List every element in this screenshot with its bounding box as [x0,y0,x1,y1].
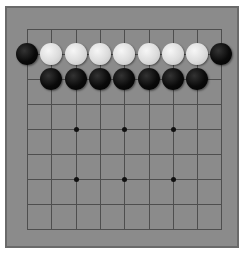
intersection[interactable] [66,119,86,139]
intersection[interactable] [139,169,159,189]
black-stone[interactable] [89,68,111,90]
intersection[interactable] [17,194,37,214]
intersection[interactable] [17,94,37,114]
intersection[interactable] [41,94,61,114]
intersection[interactable] [90,169,110,189]
white-stone[interactable] [138,43,160,65]
intersection[interactable] [163,94,183,114]
black-stone[interactable] [16,43,38,65]
intersection[interactable] [139,194,159,214]
intersection[interactable] [163,219,183,239]
intersection[interactable] [66,169,86,189]
intersection[interactable] [187,219,207,239]
intersection[interactable] [90,194,110,214]
black-stone[interactable] [186,68,208,90]
intersection[interactable] [187,19,207,39]
intersection[interactable] [163,169,183,189]
white-stone[interactable] [65,43,87,65]
intersection[interactable] [187,119,207,139]
intersection[interactable] [187,194,207,214]
intersection[interactable] [211,169,231,189]
intersection[interactable] [211,119,231,139]
intersection[interactable] [90,19,110,39]
intersection[interactable] [187,169,207,189]
intersection[interactable] [211,69,231,89]
black-stone[interactable] [65,68,87,90]
white-stone[interactable] [113,43,135,65]
intersection[interactable] [66,194,86,214]
intersection[interactable] [17,119,37,139]
intersection[interactable] [114,19,134,39]
intersection[interactable] [41,194,61,214]
intersection[interactable] [90,94,110,114]
intersection[interactable] [90,119,110,139]
intersection[interactable] [114,219,134,239]
intersection[interactable] [114,144,134,164]
intersection[interactable] [90,144,110,164]
white-stone[interactable] [186,43,208,65]
intersection[interactable] [114,169,134,189]
intersection[interactable] [17,69,37,89]
intersection[interactable] [17,219,37,239]
intersection[interactable] [139,19,159,39]
intersection[interactable] [114,94,134,114]
black-stone[interactable] [113,68,135,90]
intersection[interactable] [114,194,134,214]
intersection[interactable] [17,144,37,164]
intersection[interactable] [139,219,159,239]
intersection[interactable] [17,19,37,39]
intersection[interactable] [211,94,231,114]
white-stone[interactable] [89,43,111,65]
intersection[interactable] [187,144,207,164]
intersection[interactable] [139,144,159,164]
intersection[interactable] [211,219,231,239]
intersection[interactable] [90,219,110,239]
intersection[interactable] [66,94,86,114]
intersection[interactable] [41,119,61,139]
intersection[interactable] [66,144,86,164]
intersection[interactable] [211,144,231,164]
intersection[interactable] [163,19,183,39]
intersection[interactable] [41,169,61,189]
intersection[interactable] [211,194,231,214]
intersection[interactable] [41,19,61,39]
intersection[interactable] [163,144,183,164]
intersection[interactable] [114,119,134,139]
black-stone[interactable] [138,68,160,90]
white-stone[interactable] [40,43,62,65]
black-stone[interactable] [40,68,62,90]
intersection[interactable] [66,219,86,239]
intersection[interactable] [139,94,159,114]
intersection[interactable] [163,119,183,139]
intersection[interactable] [41,219,61,239]
intersection[interactable] [41,144,61,164]
intersection[interactable] [66,19,86,39]
black-stone[interactable] [162,68,184,90]
intersection[interactable] [17,169,37,189]
intersection[interactable] [187,94,207,114]
intersection[interactable] [139,119,159,139]
intersection[interactable] [211,19,231,39]
white-stone[interactable] [162,43,184,65]
intersection[interactable] [163,194,183,214]
black-stone[interactable] [210,43,232,65]
